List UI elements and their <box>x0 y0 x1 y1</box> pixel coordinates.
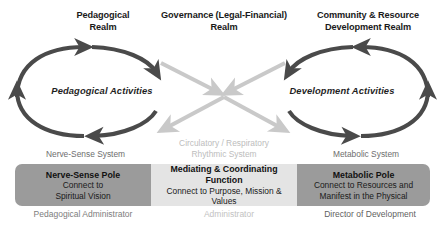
system-caption-metabolic: Metabolic System <box>300 149 432 160</box>
pole-box-metabolic: Metabolic Pole Connect to Resources and … <box>297 164 430 206</box>
threefold-realms-diagram: Pedagogical Realm Governance (Legal-Fina… <box>0 0 445 231</box>
role-caption-director-of-development: Director of Development <box>300 209 440 219</box>
realm-heading-community: Community & Resource Development Realm <box>296 10 440 33</box>
system-caption-nerve-sense: Nerve-Sense System <box>18 149 153 160</box>
cross-arrow-out-to-lower-right <box>224 97 281 128</box>
left-loop-arc-top-right <box>92 47 156 72</box>
right-loop-arc-top-left <box>289 47 353 72</box>
pole-sub-nerve-sense-line1: Connect to <box>63 180 104 190</box>
realm-heading-governance-line1: Governance (Legal-Financial) <box>148 10 300 22</box>
system-caption-rhythmic: Circulatory / Respiratory Rhythmic Syste… <box>152 138 296 159</box>
system-caption-rhythmic-line2: Rhythmic System <box>152 149 296 160</box>
pole-sub-nerve-sense-line2: Spiritual Vision <box>55 191 110 201</box>
right-loop-arc-bottom-right <box>361 90 428 136</box>
realm-heading-governance: Governance (Legal-Financial) Realm <box>148 10 300 33</box>
pole-sub-metabolic-line2: Manifest in the Physical <box>320 191 408 201</box>
system-caption-nerve-sense-line1: Nerve-Sense System <box>18 149 153 160</box>
pole-sub-metabolic-line1: Connect to Resources and <box>314 180 413 190</box>
loop-label-pedagogical-activities: Pedagogical Activities <box>22 85 182 96</box>
realm-heading-governance-line2: Realm <box>148 22 300 34</box>
loop-label-development-activities: Development Activities <box>262 85 422 96</box>
pole-box-mediating-coordinating: Mediating & Coordinating Function Connec… <box>151 164 297 206</box>
realm-heading-community-line1: Community & Resource <box>296 10 440 22</box>
poles-banner: Nerve-Sense Pole Connect to Spiritual Vi… <box>15 164 430 206</box>
left-loop-arc-bottom-left <box>17 90 84 136</box>
role-caption-administrator: Administrator <box>158 209 300 219</box>
pole-title-metabolic: Metabolic Pole <box>333 170 395 181</box>
pole-title-nerve-sense: Nerve-Sense Pole <box>46 170 120 181</box>
right-loop-arc-bottom-left <box>289 111 351 136</box>
realm-heading-community-line2: Development Realm <box>296 22 440 34</box>
system-caption-metabolic-line1: Metabolic System <box>300 149 432 160</box>
pole-box-nerve-sense: Nerve-Sense Pole Connect to Spiritual Vi… <box>15 164 151 206</box>
pole-title-mediating-line2: Function <box>205 175 242 186</box>
system-caption-rhythmic-line1: Circulatory / Respiratory <box>152 138 296 149</box>
left-loop-arc-bottom-right <box>94 111 156 136</box>
pole-title-mediating-line1: Mediating & Coordinating <box>170 164 277 175</box>
pole-sub-mediating-line1: Connect to Purpose, Mission & Values <box>154 186 294 207</box>
role-caption-pedagogical-administrator: Pedagogical Administrator <box>12 209 154 219</box>
cross-arrow-out-to-lower-left <box>166 97 224 128</box>
